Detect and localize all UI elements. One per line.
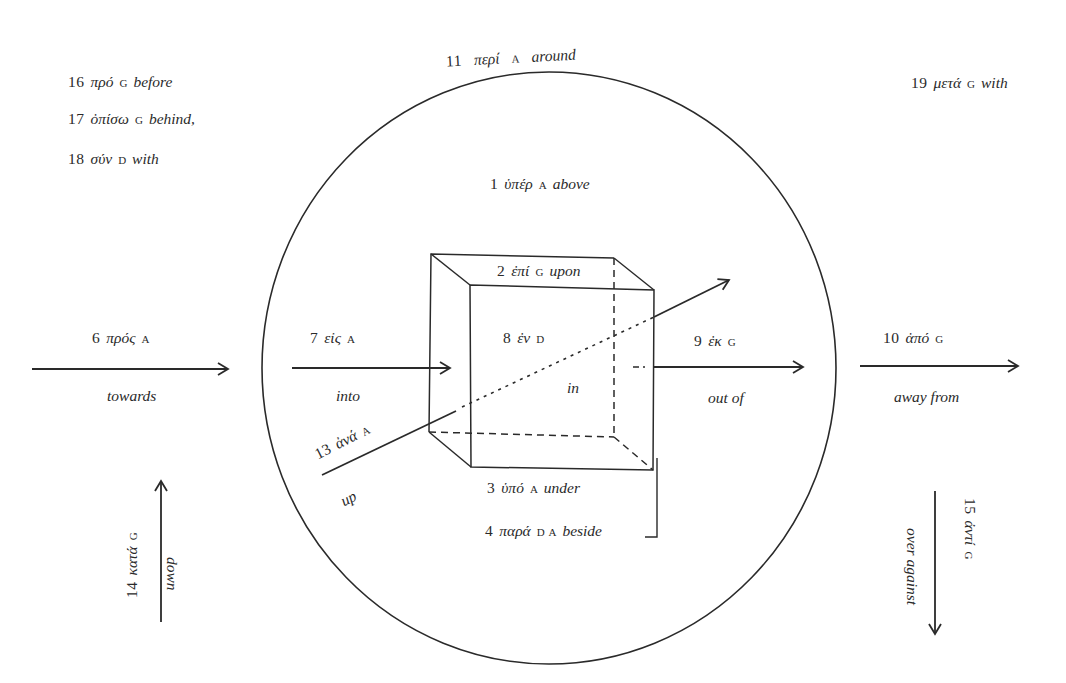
english-gloss: with (132, 150, 159, 167)
box-front-face (470, 285, 654, 470)
label-number: 8 (503, 329, 511, 346)
box-hidden-bottom-edge (429, 432, 614, 437)
english-gloss-towards: towards (107, 388, 156, 404)
label-number: 18 (68, 150, 85, 167)
box-top-left-edge (431, 254, 470, 285)
case-mark: A (530, 480, 538, 496)
label-syn: 19μετάGwith (911, 75, 1008, 91)
case-mark: A (142, 330, 150, 346)
through-line-exit (654, 280, 729, 317)
label-epi: 2ἐπίGupon (497, 263, 580, 279)
greek-word: κατά (123, 546, 140, 575)
label-kata: 15ἀντίG (962, 498, 978, 559)
english-gloss-down: over against (905, 528, 921, 605)
label-apo: 10ἀπόG (883, 330, 943, 346)
label-ek: 9ἐκG (694, 333, 736, 349)
box (429, 254, 654, 470)
label-anti: 16πρόGbefore (68, 74, 172, 90)
english-gloss: beside (562, 522, 602, 539)
case-mark: G (962, 551, 978, 559)
english-gloss: behind, (149, 110, 195, 127)
english-gloss-in: in (567, 380, 579, 396)
label-number: 19 (911, 74, 928, 91)
english-gloss: above (553, 175, 590, 192)
label-number: 14 (123, 582, 140, 599)
label-number: 9 (694, 332, 702, 349)
case-mark: D (118, 151, 126, 167)
label-pros: 6πρόςA (92, 330, 149, 346)
greek-word: ὑπό (501, 479, 524, 496)
greek-word: παρά (499, 522, 530, 539)
greek-word: πρός (106, 329, 135, 346)
label-number: 11 (446, 52, 463, 70)
label-hypo: 3ὑπόAunder (487, 480, 580, 496)
english-gloss: before (133, 73, 172, 90)
english-gloss-into: into (336, 388, 360, 404)
label-meta (911, 113, 929, 129)
label-number: 3 (487, 479, 495, 496)
box-bottom-left-edge (429, 432, 471, 467)
english-gloss: upon (549, 262, 580, 279)
greek-word: μετά (934, 74, 962, 91)
greek-word: ὑπέρ (504, 175, 532, 192)
label-number: 4 (485, 522, 493, 539)
english-gloss-out-of: out of (708, 390, 744, 406)
greek-word: ἐν (517, 329, 530, 346)
case-mark: G (119, 74, 127, 90)
english-gloss-up: down (165, 557, 181, 591)
box-top-right-edge (614, 258, 654, 290)
label-number: 2 (497, 262, 505, 279)
case-mark: D (536, 330, 544, 346)
label-para: 4παράD Abeside (485, 523, 602, 539)
label-hyper: 1ὑπέρAabove (490, 176, 590, 192)
case-mark: A (511, 50, 520, 66)
case-mark: G (967, 75, 975, 91)
label-number: 10 (883, 329, 900, 346)
case-mark: G (935, 330, 943, 346)
greek-word: ἐκ (708, 332, 722, 349)
label-eis: 7εἰςA (310, 330, 355, 346)
case-mark: G (728, 333, 736, 349)
case-mark: A (539, 176, 547, 192)
greek-word: πρό (91, 73, 114, 90)
label-en: 8ἐνD (503, 330, 544, 346)
greek-word: εἰς (324, 329, 341, 346)
label-number: 7 (310, 329, 318, 346)
english-gloss: with (981, 74, 1008, 91)
case-mark: G (135, 111, 143, 127)
through-line-inside (462, 317, 654, 407)
label-number: 1 (490, 175, 498, 192)
label-opiso: 18σύνDwith (68, 151, 159, 167)
label-pro: 17ὀπίσωGbehind, (68, 111, 195, 127)
label-number: 17 (68, 110, 85, 127)
greek-word: ἀντί (962, 521, 979, 546)
case-mark: G (124, 532, 140, 540)
english-gloss-away-from: away from (894, 389, 959, 405)
label-number: 6 (92, 329, 100, 346)
case-mark: A (347, 330, 355, 346)
label-number: 16 (68, 73, 85, 90)
label-ana: 14κατάG (124, 532, 140, 598)
greek-word: σύν (91, 150, 113, 167)
box-hidden-bottom-right-edge (614, 437, 653, 470)
label-number: 15 (962, 498, 979, 515)
greek-word: ὀπίσω (91, 110, 129, 127)
greek-word: ἀπό (906, 329, 930, 346)
english-gloss: around (531, 46, 576, 65)
greek-word: ἐπί (511, 262, 529, 279)
case-mark: D A (537, 523, 557, 539)
greek-word: περί (474, 50, 500, 68)
case-mark: G (535, 263, 543, 279)
label-meta-after (984, 140, 990, 156)
english-gloss: under (544, 479, 580, 496)
